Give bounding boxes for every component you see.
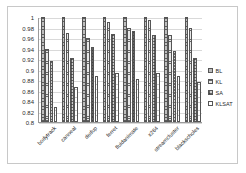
bar-bl-fluidanimate: [123, 17, 127, 122]
legend-item-label: KLSAT: [216, 101, 233, 107]
bar-sa-streamcluster: [173, 51, 177, 122]
bar-bl-blackscholes: [185, 17, 189, 122]
bars-layer: [39, 18, 202, 122]
bar-kl-dedup: [86, 38, 90, 122]
bar-sa-blackscholes: [193, 58, 197, 122]
bar-bl-bodytrack: [41, 17, 45, 122]
y-axis-tick-label: 0.88: [22, 78, 34, 84]
bar-group: [183, 18, 204, 122]
bar-group: [39, 18, 60, 122]
x-axis-labels: bodytrackcannealdedupferretfluidanimatex…: [38, 123, 202, 167]
bar-group: [60, 18, 81, 122]
chart-legend: BLKLSAKLSAT: [208, 65, 246, 109]
y-axis-tick-label: 1: [31, 15, 34, 21]
legend-swatch-icon: [208, 79, 213, 84]
bar-sa-ferret: [111, 34, 115, 122]
bar-bl-canneal: [62, 17, 66, 122]
bar-group: [162, 18, 183, 122]
y-axis-tick-label: 0.92: [22, 57, 34, 63]
chart-figure: 10.980.960.940.920.90.880.860.840.820.8 …: [0, 0, 246, 173]
bar-klsat-blackscholes: [197, 82, 201, 122]
bar-klsat-dedup: [95, 76, 99, 122]
legend-item-kl[interactable]: KL: [208, 76, 246, 87]
legend-swatch-icon: [208, 90, 213, 95]
x-axis-tick-label: x264: [147, 125, 160, 138]
legend-swatch-icon: [208, 68, 213, 73]
bar-sa-x264: [152, 35, 156, 122]
bar-group: [101, 18, 122, 122]
bar-kl-blackscholes: [189, 28, 193, 123]
legend-item-bl[interactable]: BL: [208, 65, 246, 76]
legend-item-label: BL: [216, 68, 223, 74]
bar-sa-dedup: [91, 47, 95, 122]
bar-kl-fluidanimate: [127, 28, 131, 123]
x-axis-tick-label: dedup: [83, 125, 98, 140]
legend-swatch-icon: [208, 101, 213, 106]
y-axis-tick-label: 0.82: [22, 110, 34, 116]
legend-item-label: KL: [216, 79, 223, 85]
x-axis-tick-label: bodytrack: [36, 125, 57, 146]
bar-bl-ferret: [103, 17, 107, 122]
y-axis-tick-label: 0.9: [26, 68, 34, 74]
chart-frame: 10.980.960.940.920.90.880.860.840.820.8 …: [7, 6, 238, 164]
bar-klsat-streamcluster: [177, 76, 181, 122]
bar-kl-canneal: [66, 33, 70, 122]
bar-sa-bodytrack: [50, 61, 54, 122]
bar-kl-bodytrack: [45, 49, 49, 123]
y-axis-tick-label: 0.98: [22, 26, 34, 32]
bar-group: [80, 18, 101, 122]
bar-klsat-fluidanimate: [136, 79, 140, 122]
x-axis-tick-label: ferret: [105, 125, 118, 138]
bar-kl-x264: [148, 20, 152, 122]
bar-klsat-bodytrack: [54, 107, 58, 122]
y-axis-tick-label: 0.96: [22, 36, 34, 42]
bar-bl-x264: [144, 17, 148, 122]
y-axis-tick-label: 0.84: [22, 99, 34, 105]
x-axis-tick-label: canneal: [60, 125, 78, 143]
legend-item-label: SA: [216, 90, 223, 96]
bar-bl-dedup: [82, 17, 86, 122]
y-axis-tick-label: 0.94: [22, 47, 34, 53]
y-axis-labels: 10.980.960.940.920.90.880.860.840.820.8: [8, 18, 36, 123]
legend-item-klsat[interactable]: KLSAT: [208, 98, 246, 109]
bar-klsat-ferret: [115, 73, 119, 122]
bar-kl-ferret: [107, 22, 111, 122]
bar-sa-fluidanimate: [132, 31, 136, 122]
bar-kl-streamcluster: [168, 35, 172, 122]
bar-group: [142, 18, 163, 122]
legend-item-sa[interactable]: SA: [208, 87, 246, 98]
bar-bl-streamcluster: [164, 17, 168, 122]
y-axis-tick-label: 0.86: [22, 89, 34, 95]
bar-sa-canneal: [70, 58, 74, 122]
y-axis-tick-label: 0.8: [26, 120, 34, 126]
bar-group: [121, 18, 142, 122]
bar-klsat-x264: [156, 73, 160, 122]
plot-area: [38, 18, 202, 123]
bar-klsat-canneal: [74, 87, 78, 122]
